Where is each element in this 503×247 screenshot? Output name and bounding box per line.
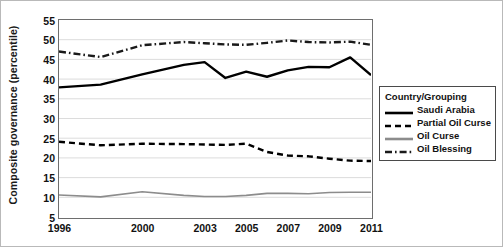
y-axis-tick-label: 30 [33,113,55,125]
y-axis-tick-label: 45 [33,54,55,66]
y-axis-tick-label: 10 [33,192,55,204]
y-axis-title-text: Composite governance (percentile) [7,26,19,205]
series-line [59,192,371,197]
legend-title: Country/Grouping [385,91,491,102]
series-canvas [59,20,371,217]
solid-black-line-icon [384,104,414,115]
x-axis-tick-labels: 1996200020032005200720092011 [1,222,503,240]
legend-item-label: Partial Oil Curse [417,117,491,128]
y-axis-tick-label: 50 [33,34,55,46]
series-line [59,40,371,57]
x-axis-tick-label: 2011 [360,222,383,234]
series-line [59,57,371,87]
solid-gray-line-icon [384,130,414,141]
legend-item-label: Oil Curse [417,130,459,141]
legend-items: Saudi ArabiaPartial Oil CurseOil CurseOi… [384,103,491,155]
legend-item[interactable]: Oil Blessing [384,142,491,155]
legend-item[interactable]: Partial Oil Curse [384,116,491,129]
y-axis-tick-labels: 555045403530252015105 [27,1,55,247]
chart-figure: Composite governance (percentile) 555045… [0,0,503,247]
y-axis-tick-label: 25 [33,133,55,145]
x-axis-tick-label: 2005 [235,222,258,234]
x-axis-tick-label: 1996 [48,222,71,234]
y-axis-tick-label: 40 [33,74,55,86]
legend-item[interactable]: Oil Curse [384,129,491,142]
y-axis-tick-label: 20 [33,152,55,164]
x-axis-tick-label: 2003 [193,222,216,234]
x-axis-tick-label: 2007 [277,222,300,234]
legend-item-label: Oil Blessing [417,143,472,154]
x-axis-tick-label: 2000 [131,222,154,234]
legend-item-label: Saudi Arabia [417,104,475,115]
chart-legend: Country/Grouping Saudi ArabiaPartial Oil… [379,86,496,161]
dash-dot-black-line-icon [384,143,414,154]
legend-item[interactable]: Saudi Arabia [384,103,491,116]
y-axis-title: Composite governance (percentile) [1,1,25,229]
plot-area [58,19,373,219]
y-axis-tick-label: 15 [33,172,55,184]
y-axis-tick-label: 55 [33,15,55,27]
x-axis-tick-label: 2009 [318,222,341,234]
dashed-black-line-icon [384,117,414,128]
y-axis-tick-label: 35 [33,93,55,105]
